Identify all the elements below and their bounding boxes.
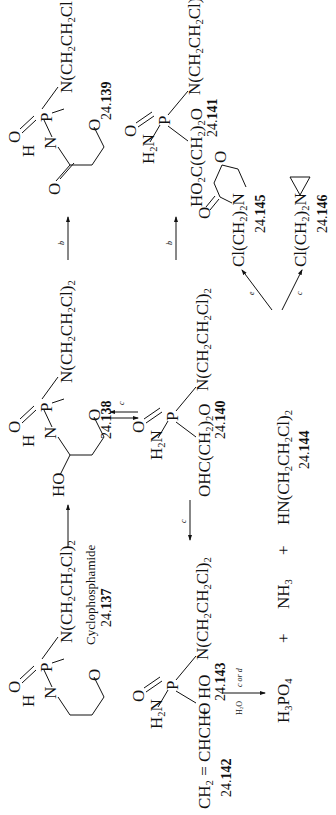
substituent-138: N(CH2CH2Cl)2 (58, 280, 75, 383)
atom-h-137: H (20, 695, 37, 707)
formula-146: Cl(CH2)2N (292, 193, 309, 267)
condition-140-141: b (166, 241, 174, 245)
condition-138-140: c (118, 401, 126, 405)
atom-o-ring-145: O (212, 151, 229, 163)
compound-label-138: 24.138 (100, 401, 114, 440)
formula-144: HN(CH2CH2Cl)2 (275, 410, 292, 525)
ring-138 (20, 377, 104, 475)
atom-h-139: H (20, 145, 37, 157)
atom-p-140: P (164, 412, 181, 421)
substituent-140: N(CH2CH2Cl)2 (194, 288, 211, 391)
substituent-143: N(CH2CH2Cl)2 (194, 557, 211, 660)
atom-p-137: P (38, 663, 55, 672)
formula-h3po4: H3PO4 (275, 678, 292, 723)
arrow-144-146 (282, 270, 302, 310)
condition-144-145: e (248, 291, 256, 295)
condition-h2o: H2O (236, 701, 244, 715)
atom-h-138: H (20, 435, 37, 447)
compound-name-137: Cyclophosphamide (84, 545, 97, 645)
formula-145: Cl(CH2)2N (230, 193, 247, 267)
compound-label-146: 24.146 (316, 195, 330, 234)
amine-141: H2N (140, 134, 157, 164)
atom-p-139: P (38, 113, 55, 122)
reaction-scheme: H N P O O N(CH2CH2Cl)2 Cyclophosphamide … (0, 0, 336, 815)
compound-label-145: 24.145 (254, 195, 268, 234)
compound-label-141: 24.141 (206, 99, 220, 138)
arrow-144-145 (242, 270, 272, 310)
atom-o-double-141: O (122, 125, 139, 137)
compound-label-140: 24.140 (214, 401, 228, 440)
atom-ho-138: HO (50, 472, 67, 497)
plus-1: + (275, 633, 292, 643)
substituent-137: N(CH2CH2Cl)2 (58, 540, 75, 643)
condition-c-or-d: c or d (236, 668, 244, 687)
left-group-143: HO (196, 674, 213, 699)
amine-143: H2N (148, 699, 165, 729)
compound-label-144: 24.144 (298, 431, 312, 470)
atom-o-ring-137: O (86, 669, 103, 681)
left-group-141: HO2C(CH2)2O (188, 108, 205, 207)
left-group-140: OHC(CH2)2O (196, 403, 213, 497)
atom-o-double-137: O (6, 681, 23, 693)
amine-140: H2N (148, 430, 165, 460)
atom-o-double-140: O (130, 421, 147, 433)
atom-p-141: P (156, 116, 173, 125)
condition-140-143: c (180, 519, 188, 523)
formula-nh3: NH3 (275, 579, 292, 609)
atom-o-double-138: O (6, 421, 23, 433)
plus-142-143: + (196, 707, 213, 717)
atom-n-138: N (42, 427, 59, 439)
compound-label-143: 24.143 (214, 663, 228, 702)
atom-n-139: N (42, 137, 59, 149)
formula-142: CH2 = CHCHO (196, 703, 213, 810)
ring-139 (20, 87, 104, 181)
atom-o-keto-139: O (46, 183, 63, 195)
atom-p-143: P (164, 681, 181, 690)
atom-p-138: P (38, 403, 55, 412)
substituent-141: N(CH2CH2Cl)2 (186, 0, 203, 95)
atom-n-137: N (42, 687, 59, 699)
equilibrium-arrow-138-140 (110, 412, 138, 418)
compound-label-142: 24.142 (220, 759, 234, 798)
condition-144-146: c (296, 291, 304, 295)
atom-o-ring-139: O (86, 119, 103, 131)
compound-label-137: 24.137 (100, 589, 114, 628)
substituent-139: N(CH2CH2Cl (58, 1, 75, 93)
atom-o-double-143: O (130, 690, 147, 702)
atom-o-keto-145: O (196, 207, 213, 219)
compound-label-139: 24.139 (100, 82, 114, 121)
plus-2: + (275, 545, 292, 555)
atom-o-double-139: O (6, 131, 23, 143)
condition-138-139: b (58, 241, 66, 245)
